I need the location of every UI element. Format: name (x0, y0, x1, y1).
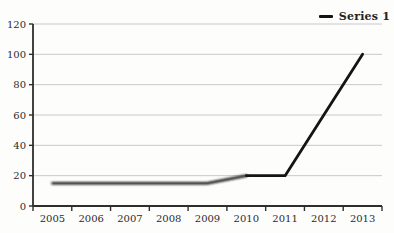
y-axis-label: 40 (13, 140, 26, 151)
x-axis-label: 2008 (156, 213, 181, 224)
x-axis-label: 2009 (195, 213, 220, 224)
x-axis-label: 2012 (311, 213, 336, 224)
x-axis-label: 2013 (350, 213, 375, 224)
y-axis-label: 0 (20, 201, 26, 212)
chart-container: 0204060801001202005200620072008200920102… (0, 0, 394, 233)
series-line-early (52, 176, 246, 184)
legend-series-label: Series 1 (339, 10, 390, 23)
x-axis-label: 2010 (234, 213, 259, 224)
legend-line-marker-icon (319, 15, 333, 18)
legend: Series 1 (319, 10, 390, 23)
x-axis-label: 2005 (40, 213, 65, 224)
y-axis-label: 100 (7, 49, 26, 60)
x-axis-label: 2007 (117, 213, 142, 224)
y-axis-label: 80 (13, 79, 26, 90)
x-axis-label: 2006 (78, 213, 103, 224)
x-axis-label: 2011 (272, 213, 297, 224)
y-axis-label: 20 (13, 170, 26, 181)
y-axis-label: 60 (13, 110, 26, 121)
line-chart: 0204060801001202005200620072008200920102… (0, 0, 394, 233)
y-axis-label: 120 (7, 19, 26, 30)
